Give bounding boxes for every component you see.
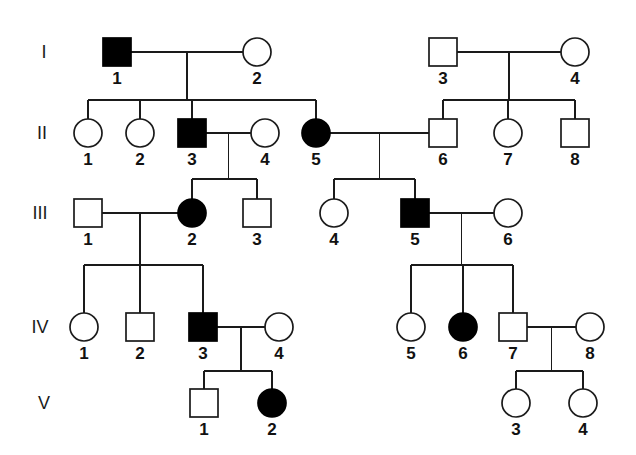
individual-II-3-male-affected[interactable] bbox=[178, 119, 206, 147]
individual-IV-4-female-unaffected[interactable] bbox=[265, 313, 293, 341]
individual-I-4-female-unaffected[interactable] bbox=[561, 38, 589, 66]
individual-I-1-male-affected[interactable] bbox=[103, 38, 131, 66]
generation-label-III: III bbox=[32, 203, 47, 223]
individual-II-6-male-unaffected[interactable] bbox=[429, 119, 457, 147]
generation-label-II: II bbox=[37, 123, 47, 143]
id-label-I-1: 1 bbox=[112, 69, 121, 88]
individual-II-1-female-unaffected[interactable] bbox=[74, 119, 102, 147]
individual-I-2-female-unaffected[interactable] bbox=[243, 38, 271, 66]
id-label-III-1: 1 bbox=[83, 230, 92, 249]
id-label-II-8: 8 bbox=[570, 150, 579, 169]
id-label-IV-1: 1 bbox=[79, 344, 88, 363]
generation-label-I: I bbox=[41, 42, 46, 62]
individual-IV-2-male-unaffected[interactable] bbox=[126, 313, 154, 341]
individual-IV-1-female-unaffected[interactable] bbox=[70, 313, 98, 341]
id-label-I-4: 4 bbox=[570, 69, 580, 88]
individual-IV-5-female-unaffected[interactable] bbox=[397, 313, 425, 341]
pedigree-canvas: 123412345678123456123456781234 IIIIIIIVV bbox=[0, 0, 636, 455]
individual-I-3-male-unaffected[interactable] bbox=[429, 38, 457, 66]
individual-IV-8-female-unaffected[interactable] bbox=[576, 313, 604, 341]
individual-II-8-male-unaffected[interactable] bbox=[561, 119, 589, 147]
individual-V-1-male-unaffected[interactable] bbox=[190, 389, 218, 417]
individual-IV-3-male-affected[interactable] bbox=[189, 313, 217, 341]
id-label-IV-8: 8 bbox=[585, 344, 594, 363]
id-label-II-5: 5 bbox=[311, 150, 320, 169]
id-label-V-4: 4 bbox=[578, 420, 588, 439]
individual-III-2-female-affected[interactable] bbox=[178, 199, 206, 227]
individual-II-5-female-affected[interactable] bbox=[302, 119, 330, 147]
id-label-IV-7: 7 bbox=[508, 344, 517, 363]
generation-label-IV: IV bbox=[31, 317, 48, 337]
id-label-IV-6: 6 bbox=[458, 344, 467, 363]
generation-label-V: V bbox=[38, 393, 50, 413]
individual-V-2-female-affected[interactable] bbox=[258, 389, 286, 417]
id-label-V-3: 3 bbox=[511, 420, 520, 439]
individual-IV-6-female-affected[interactable] bbox=[449, 313, 477, 341]
id-label-II-7: 7 bbox=[503, 150, 512, 169]
individual-III-1-male-unaffected[interactable] bbox=[74, 199, 102, 227]
id-label-I-3: 3 bbox=[438, 69, 447, 88]
pedigree-symbols bbox=[70, 38, 604, 417]
id-label-III-3: 3 bbox=[252, 230, 261, 249]
id-label-V-1: 1 bbox=[199, 420, 208, 439]
pedigree-chart: 123412345678123456123456781234 IIIIIIIVV bbox=[0, 0, 636, 455]
individual-II-7-female-unaffected[interactable] bbox=[494, 119, 522, 147]
generation-labels: IIIIIIIVV bbox=[31, 42, 50, 413]
individual-V-3-female-unaffected[interactable] bbox=[502, 389, 530, 417]
individual-II-2-female-unaffected[interactable] bbox=[126, 119, 154, 147]
id-label-II-6: 6 bbox=[438, 150, 447, 169]
id-label-I-2: 2 bbox=[252, 69, 261, 88]
id-label-II-2: 2 bbox=[135, 150, 144, 169]
id-label-III-6: 6 bbox=[503, 230, 512, 249]
id-label-II-3: 3 bbox=[187, 150, 196, 169]
id-label-IV-2: 2 bbox=[135, 344, 144, 363]
individual-IV-7-male-unaffected[interactable] bbox=[499, 313, 527, 341]
id-label-IV-3: 3 bbox=[198, 344, 207, 363]
id-label-IV-5: 5 bbox=[406, 344, 415, 363]
individual-III-5-male-affected[interactable] bbox=[401, 199, 429, 227]
id-label-III-4: 4 bbox=[329, 230, 339, 249]
id-label-IV-4: 4 bbox=[274, 344, 284, 363]
id-label-V-2: 2 bbox=[267, 420, 276, 439]
individual-III-3-male-unaffected[interactable] bbox=[243, 199, 271, 227]
id-label-III-5: 5 bbox=[410, 230, 419, 249]
individual-II-4-female-unaffected[interactable] bbox=[251, 119, 279, 147]
id-label-II-1: 1 bbox=[83, 150, 92, 169]
individual-III-4-female-unaffected[interactable] bbox=[320, 199, 348, 227]
id-label-II-4: 4 bbox=[260, 150, 270, 169]
individual-V-4-female-unaffected[interactable] bbox=[569, 389, 597, 417]
id-label-III-2: 2 bbox=[187, 230, 196, 249]
individual-III-6-female-unaffected[interactable] bbox=[494, 199, 522, 227]
